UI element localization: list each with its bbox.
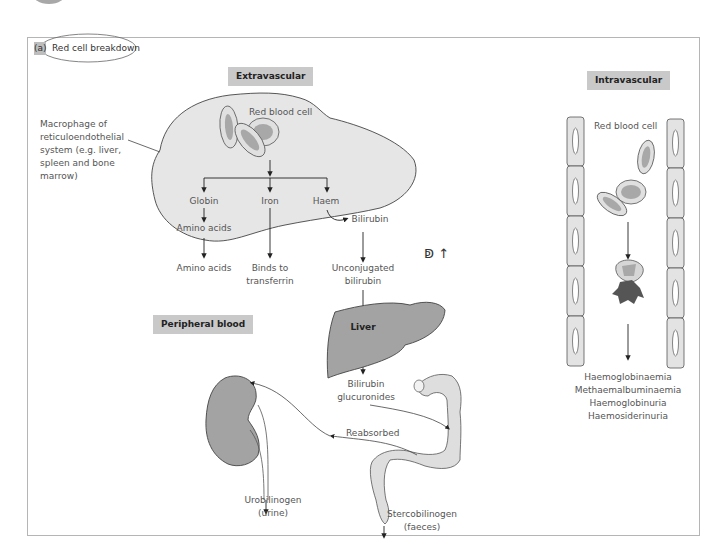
amino-acids-outer-label: Amino acids — [177, 262, 232, 274]
vessel-wall-left — [567, 117, 584, 366]
urobilinogen-line-2: (urine) — [258, 507, 288, 519]
rbc-label-extravascular: Red blood cell — [249, 106, 312, 118]
peripheral-blood-heading: Peripheral blood — [153, 315, 253, 334]
liver-label: Liver — [350, 321, 375, 333]
macrophage-label-line-5: marrow) — [40, 170, 78, 182]
bilirubin-glucuronides-line-1: Bilirubin — [348, 378, 385, 390]
kidney-shape — [206, 376, 259, 466]
macrophage-label-line-4: spleen and bone — [40, 157, 115, 169]
intravascular-heading: Intravascular — [587, 71, 670, 90]
unconjugated-bilirubin-line-2: bilirubin — [345, 275, 382, 287]
figure-title: Red cell breakdown — [52, 42, 140, 55]
liver-shape — [327, 302, 445, 378]
ureter — [258, 405, 268, 500]
outcome-methaemalbuminaemia: Methaemalbuminaemia — [575, 384, 682, 396]
rbc-label-intravascular: Red blood cell — [594, 120, 657, 132]
outcome-haemoglobinaemia: Haemoglobinaemia — [584, 371, 672, 383]
extravascular-heading: Extravascular — [228, 67, 313, 86]
unconjugated-bilirubin-line-1: Unconjugated — [332, 262, 395, 274]
binds-to-transferrin-line-2: transferrin — [246, 275, 293, 287]
bilirubin-glucuronides-line-2: glucuronides — [337, 391, 395, 403]
handwritten-note: ↁ ↑ — [424, 246, 449, 261]
haem-label: Haem — [313, 195, 340, 207]
amino-acids-inner-label: Amino acids — [177, 222, 232, 234]
panel-letter: (a) — [34, 42, 46, 55]
stercobilinogen-line-1: Stercobilinogen — [387, 508, 457, 520]
macrophage-label-line-1: Macrophage of — [40, 118, 107, 130]
outcome-haemoglobinuria: Haemoglobinuria — [589, 397, 666, 409]
colon-opening — [414, 380, 424, 392]
binds-to-transferrin-line-1: Binds to — [252, 262, 289, 274]
macrophage-pointer-line — [128, 140, 160, 152]
vessel-wall-right — [667, 119, 684, 368]
reabsorbed-label: Reabsorbed — [346, 427, 399, 439]
globin-label: Globin — [190, 195, 219, 207]
bilirubin-label: Bilirubin — [352, 213, 389, 225]
stercobilinogen-line-2: (faeces) — [404, 521, 440, 533]
urobilinogen-line-1: Urobilinogen — [245, 494, 302, 506]
outcome-haemosiderinuria: Haemosiderinuria — [588, 410, 668, 422]
macrophage-label-line-3: system (e.g. liver, — [40, 144, 121, 156]
haemoglobin-release — [612, 280, 644, 304]
iron-label: Iron — [261, 195, 278, 207]
rbc-cluster-intravascular — [593, 139, 656, 220]
macrophage-label-line-2: reticuloendothelial — [40, 131, 124, 143]
